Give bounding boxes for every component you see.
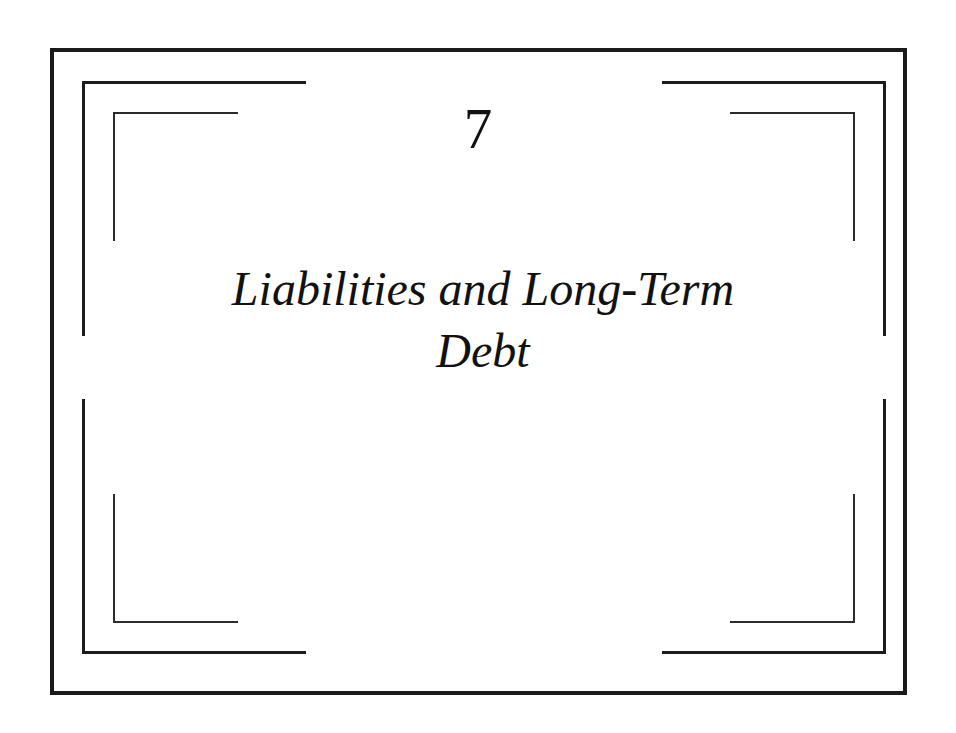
chapter-title-line-1: Liabilities and Long-Term <box>168 258 798 320</box>
bracket-vertical-arm <box>853 494 855 623</box>
bracket-horizontal-arm <box>662 651 886 654</box>
corner-bracket-bottom-right-inner <box>730 494 855 623</box>
bracket-vertical-arm <box>883 399 886 654</box>
bracket-horizontal-arm <box>82 651 306 654</box>
bracket-horizontal-arm <box>662 81 886 84</box>
bracket-horizontal-arm <box>730 621 855 623</box>
chapter-title-page: 7 Liabilities and Long-Term Debt <box>0 0 956 733</box>
bracket-horizontal-arm <box>82 81 306 84</box>
chapter-title: Liabilities and Long-Term Debt <box>168 258 798 383</box>
bracket-vertical-arm <box>82 399 85 654</box>
chapter-title-line-2: Debt <box>168 320 798 382</box>
chapter-number: 7 <box>0 100 956 157</box>
bracket-horizontal-arm <box>113 621 238 623</box>
bracket-vertical-arm <box>113 494 115 623</box>
corner-bracket-bottom-left-inner <box>113 494 238 623</box>
